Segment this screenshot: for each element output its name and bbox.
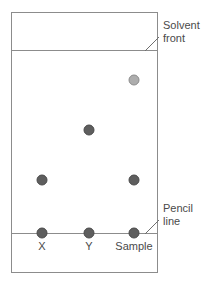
pencil-line-label-line1: Pencil xyxy=(163,202,193,214)
solvent-front-label-line2: front xyxy=(163,32,185,44)
spot-x xyxy=(37,175,47,185)
spot-sample xyxy=(129,175,139,185)
tlc-plate-figure: Solvent front Pencil line XYSample xyxy=(0,0,208,283)
spot-y xyxy=(84,125,94,135)
lane-label-y: Y xyxy=(85,240,93,252)
solvent-front-label-line1: Solvent xyxy=(163,19,200,31)
spot-x xyxy=(37,228,47,238)
spot-sample xyxy=(129,75,139,85)
lane-label-x: X xyxy=(38,240,46,252)
spot-sample xyxy=(129,228,139,238)
lane-label-sample: Sample xyxy=(115,240,152,252)
spot-y xyxy=(84,228,94,238)
pencil-line-label-line2: line xyxy=(163,215,180,227)
